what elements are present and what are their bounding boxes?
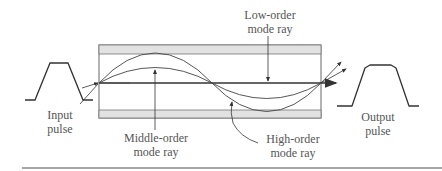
middle-label: Middle-order mode ray	[118, 131, 194, 159]
input-label-line2: pulse	[45, 122, 75, 136]
fiber-diagram	[0, 0, 442, 171]
middle-label-line1: Middle-order	[118, 131, 194, 145]
top-cladding	[99, 45, 321, 54]
low-label-line1: Low-order	[240, 8, 300, 22]
bottom-cladding	[99, 110, 321, 118]
high-label-line2: mode ray	[260, 146, 326, 160]
output-pulse-label: Output pulse	[360, 110, 396, 138]
high-label: High-order mode ray	[260, 132, 326, 160]
input-pulse-label: Input pulse	[45, 108, 75, 136]
input-pulse	[25, 63, 93, 100]
output-label-line2: pulse	[360, 124, 396, 138]
input-label-line1: Input	[45, 108, 75, 122]
high-label-line1: High-order	[260, 132, 326, 146]
output-pulse	[337, 65, 419, 106]
low-label: Low-order mode ray	[240, 8, 300, 36]
output-label-line1: Output	[360, 110, 396, 124]
middle-label-line2: mode ray	[118, 145, 194, 159]
low-label-line2: mode ray	[240, 22, 300, 36]
